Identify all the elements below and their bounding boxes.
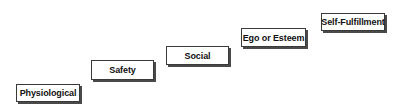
step-self-fulfillment: Self-Fulfillment xyxy=(321,13,385,31)
step-label: Safety xyxy=(109,65,135,75)
step-ego-or-esteem: Ego or Esteem xyxy=(241,28,306,47)
step-label: Ego or Esteem xyxy=(243,33,305,43)
step-safety: Safety xyxy=(91,60,154,80)
step-label: Physiological xyxy=(20,88,77,98)
step-social: Social xyxy=(166,46,229,65)
step-label: Social xyxy=(185,51,211,61)
step-physiological: Physiological xyxy=(16,84,80,102)
step-label: Self-Fulfillment xyxy=(321,17,384,27)
